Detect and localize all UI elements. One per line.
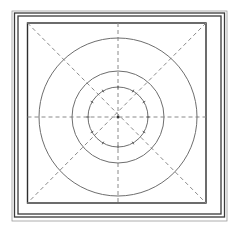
outer-frame-line-3	[18, 16, 221, 214]
center-point	[117, 116, 120, 119]
frame-border	[12, 11, 227, 221]
tick-mark	[143, 131, 146, 133]
outer-frame-line-2	[15, 13, 225, 217]
outer-frame-line-1	[12, 11, 227, 221]
tick-mark	[91, 101, 94, 103]
tick-mark	[132, 90, 134, 93]
tick-mark	[143, 101, 146, 103]
tick-mark	[102, 142, 104, 145]
concentric-circle-diagram	[0, 0, 234, 235]
tick-mark	[91, 131, 94, 133]
dashed-axes	[28, 23, 207, 203]
diagram-canvas	[0, 0, 234, 235]
tick-mark	[132, 142, 134, 145]
tick-mark	[102, 90, 104, 93]
